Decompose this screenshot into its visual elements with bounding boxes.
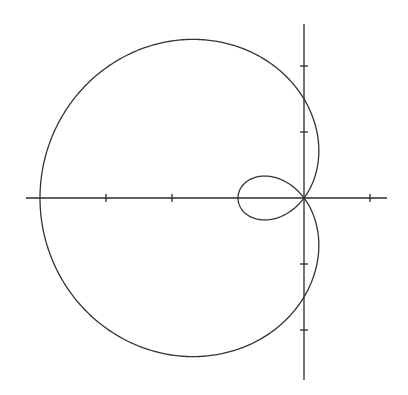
axes	[26, 24, 387, 380]
polar-plot	[0, 0, 408, 395]
